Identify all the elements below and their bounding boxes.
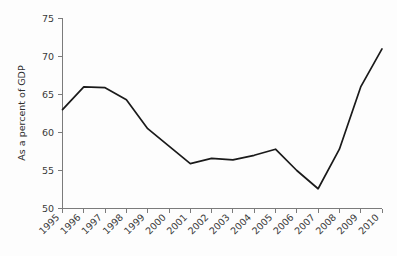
y-tick-label: 65	[42, 89, 54, 100]
y-tick-label: 55	[42, 165, 54, 176]
chart-figure: 50 55 60 65 70 75 As a percent of GDP	[0, 0, 397, 256]
y-tick-label: 75	[42, 13, 54, 24]
y-tick-label: 70	[42, 51, 54, 62]
y-axis-title: As a percent of GDP	[16, 65, 27, 161]
line-chart: 50 55 60 65 70 75 As a percent of GDP	[0, 0, 397, 256]
y-tick-label: 60	[42, 127, 54, 138]
